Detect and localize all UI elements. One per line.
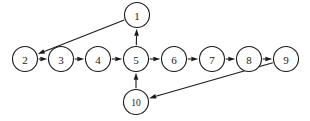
graph-edge-6-to-7 [188,57,199,62]
graph-edge-10-to-5 [134,73,139,89]
graph-node-5[interactable]: 5 [124,47,149,72]
arrowhead-icon [77,57,84,62]
arrowhead-icon [228,57,235,62]
graph-node-3[interactable]: 3 [49,47,74,72]
graph-node-9[interactable]: 9 [274,47,299,72]
graph-edge-8-to-9 [263,57,273,62]
graph-node-8[interactable]: 8 [237,47,262,72]
node-label: 5 [133,54,139,66]
node-label: 2 [22,54,28,66]
node-label: 4 [95,54,101,66]
graph-node-7[interactable]: 7 [200,47,225,72]
node-label: 9 [283,54,289,66]
graph-node-4[interactable]: 4 [86,47,111,72]
graph-edge-5-to-1 [134,29,139,46]
edge-line [44,20,124,51]
graph-canvas: 12345678910 [0,0,310,121]
arrowhead-icon [134,73,139,80]
graph-node-2[interactable]: 2 [13,47,38,72]
graph-edge-2-to-3 [39,57,48,62]
graph-edge-5-to-6 [150,57,161,62]
arrowhead-icon [115,57,122,62]
graph-node-10[interactable]: 10 [124,90,149,115]
arrowhead-icon [40,57,47,62]
graph-node-6[interactable]: 6 [162,47,187,72]
arrowhead-icon [149,94,156,98]
node-label: 6 [171,54,177,66]
graph-edge-3-to-4 [75,57,85,62]
arrowhead-icon [191,57,198,62]
directed-graph-figure: 12345678910 [0,0,310,121]
node-label: 3 [58,54,64,66]
arrowhead-icon [38,49,45,54]
node-label: 8 [246,54,252,66]
graph-node-1[interactable]: 1 [125,3,150,28]
graph-edge-4-to-5 [112,57,123,62]
node-label: 7 [209,54,215,66]
arrowhead-icon [134,29,139,36]
graph-edge-1-to-2 [38,20,124,54]
arrowhead-icon [265,57,272,62]
arrowhead-icon [153,57,160,62]
node-label: 10 [131,98,141,108]
node-label: 1 [134,10,140,22]
graph-edge-7-to-8 [226,57,236,62]
